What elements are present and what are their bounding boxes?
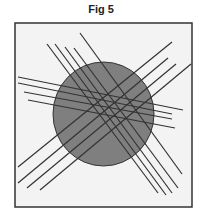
figure-canvas <box>0 0 202 220</box>
